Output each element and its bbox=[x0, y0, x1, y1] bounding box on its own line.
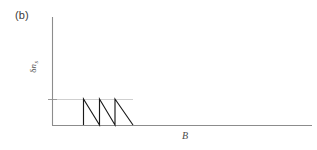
y-axis-label: δns bbox=[21, 55, 45, 79]
y-axis-label-delta: δ bbox=[28, 68, 38, 72]
y-axis-label-symbol: n bbox=[28, 64, 38, 69]
y-axis-label-subscript: s bbox=[32, 61, 39, 64]
plot-area bbox=[0, 0, 317, 150]
x-axis-label: B bbox=[160, 130, 210, 141]
figure-panel-b: (b) δns B bbox=[0, 0, 317, 150]
sawtooth-curve bbox=[84, 99, 134, 125]
